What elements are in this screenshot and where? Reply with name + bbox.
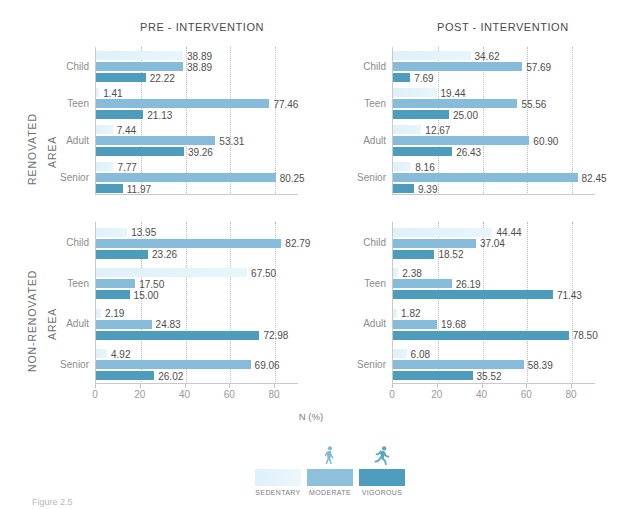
bar-value-label: 12.67 <box>425 124 450 135</box>
bar-value-label: 35.52 <box>477 370 502 381</box>
bar-vig: 78.50 <box>393 331 569 340</box>
x-tick <box>185 384 186 388</box>
bar-value-label: 7.44 <box>117 124 136 135</box>
legend-swatch <box>255 469 301 486</box>
category-row: Adult7.4453.3139.26 <box>96 121 292 158</box>
bar-value-label: 26.19 <box>456 278 481 289</box>
bar-vig: 39.26 <box>96 147 184 156</box>
bar-sed: 1.82 <box>393 309 397 318</box>
x-axis-title: N (%) <box>299 411 323 422</box>
bar-vig: 9.39 <box>393 184 414 193</box>
category-label-adult: Adult <box>66 318 89 329</box>
group-label-nonrenovated-line2: AREA <box>46 308 58 340</box>
bar-value-label: 78.50 <box>573 330 598 341</box>
bar-mod: 26.19 <box>393 279 452 288</box>
bar-vig: 26.43 <box>393 147 452 156</box>
bar-value-label: 7.77 <box>117 161 136 172</box>
bar-vig: 11.97 <box>96 184 123 193</box>
bar-value-label: 2.38 <box>402 267 421 278</box>
group-label-nonrenovated-line1: NON-RENOVATED <box>26 270 38 372</box>
bar-sed: 13.95 <box>96 228 127 237</box>
bar-mod: 17.50 <box>96 279 135 288</box>
bar-value-label: 25.00 <box>453 109 478 120</box>
x-tick-label-40: 40 <box>179 389 190 400</box>
bar-sed: 34.62 <box>393 51 471 60</box>
figure-root: PRE - INTERVENTION POST - INTERVENTION R… <box>0 0 640 509</box>
category-row: Adult12.6760.9026.43 <box>393 121 589 158</box>
bar-value-label: 57.69 <box>526 61 551 72</box>
bar-sed: 1.41 <box>96 88 99 97</box>
bar-value-label: 19.68 <box>441 319 466 330</box>
bar-value-label: 18.52 <box>438 249 463 260</box>
legend-item-sedentary: SEDENTARY <box>255 469 301 496</box>
bar-value-label: 69.06 <box>255 359 280 370</box>
bar-vig: 72.98 <box>96 331 259 340</box>
chart-panel-post-nonrenovated: Child44.4437.0418.52Teen2.3826.1971.43Ad… <box>392 222 589 384</box>
category-row: Adult2.1924.8372.98 <box>96 303 292 344</box>
x-tick <box>95 384 96 388</box>
category-label-teen: Teen <box>67 97 89 108</box>
bar-vig: 22.22 <box>96 73 146 82</box>
category-label-teen: Teen <box>364 97 386 108</box>
bar-value-label: 7.69 <box>414 72 433 83</box>
figure-caption: Figure 2.5 <box>32 497 73 507</box>
x-tick <box>392 384 393 388</box>
category-row: Senior4.9269.0626.02 <box>96 344 292 385</box>
category-label-adult: Adult <box>363 318 386 329</box>
plot-area: Child38.8938.8922.22Teen1.4177.4621.13Ad… <box>95 47 292 195</box>
bar-value-label: 8.16 <box>415 161 434 172</box>
bar-vig: 7.69 <box>393 73 410 82</box>
category-label-child: Child <box>66 60 89 71</box>
bar-mod: 82.79 <box>96 239 281 248</box>
category-label-senior: Senior <box>60 171 89 182</box>
category-label-child: Child <box>363 237 386 248</box>
x-tick-label-60: 60 <box>224 389 235 400</box>
category-label-adult: Adult <box>66 134 89 145</box>
bar-value-label: 1.41 <box>103 87 122 98</box>
bar-mod: 55.56 <box>393 99 517 108</box>
legend-item-moderate: MODERATE <box>307 469 353 496</box>
bar-vig: 23.26 <box>96 250 148 259</box>
bar-mod: 57.69 <box>393 62 522 71</box>
x-tick <box>437 384 438 388</box>
category-label-child: Child <box>363 60 386 71</box>
x-tick <box>229 384 230 388</box>
bar-value-label: 13.95 <box>131 227 156 238</box>
bar-sed: 8.16 <box>393 162 411 171</box>
legend-label: VIGOROUS <box>359 489 405 496</box>
category-label-senior: Senior <box>357 358 386 369</box>
category-row: Senior7.7780.2511.97 <box>96 158 292 195</box>
panel-title-post: POST - INTERVENTION <box>437 21 569 33</box>
x-tick-label-60: 60 <box>521 389 532 400</box>
x-tick <box>274 384 275 388</box>
category-label-senior: Senior <box>60 358 89 369</box>
bar-value-label: 17.50 <box>139 278 164 289</box>
bar-value-label: 2.19 <box>105 308 124 319</box>
bar-mod: 53.31 <box>96 136 215 145</box>
bar-value-label: 39.26 <box>188 146 213 157</box>
bar-mod: 80.25 <box>96 173 276 182</box>
bar-value-label: 11.97 <box>127 183 151 194</box>
chart-panel-pre-renovated: Child38.8938.8922.22Teen1.4177.4621.13Ad… <box>95 47 292 195</box>
legend-label: MODERATE <box>307 489 353 496</box>
bar-mod: 24.83 <box>96 320 152 329</box>
bar-mod: 69.06 <box>96 360 251 369</box>
legend-swatch <box>359 469 405 486</box>
bar-vig: 18.52 <box>393 250 434 259</box>
bar-value-label: 19.44 <box>441 87 466 98</box>
x-tick <box>482 384 483 388</box>
bar-value-label: 82.45 <box>582 172 607 183</box>
category-row: Teen67.5017.5015.00 <box>96 263 292 304</box>
bar-mod: 82.45 <box>393 173 578 182</box>
bar-value-label: 67.50 <box>251 267 276 278</box>
x-tick-label-80: 80 <box>269 389 280 400</box>
bar-sed: 6.08 <box>393 349 407 358</box>
bar-value-label: 71.43 <box>557 289 582 300</box>
bar-vig: 35.52 <box>393 371 473 380</box>
bar-value-label: 15.00 <box>134 289 159 300</box>
category-row: Child34.6257.697.69 <box>393 47 589 84</box>
x-axis-post-nonrenovated: 020406080 <box>392 384 589 404</box>
bar-value-label: 26.02 <box>158 370 183 381</box>
category-label-teen: Teen <box>67 277 89 288</box>
chart-panel-post-renovated: Child34.6257.697.69Teen19.4455.5625.00Ad… <box>392 47 589 195</box>
